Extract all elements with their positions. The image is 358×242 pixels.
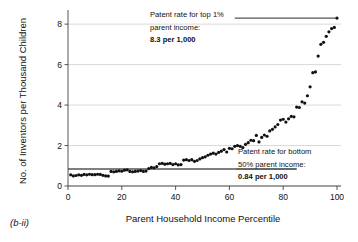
scatter-point [161,162,164,165]
scatter-point [134,170,137,173]
scatter-point [265,135,268,138]
scatter-point [290,115,293,118]
annotation-bottom-line1: Patent rate for bottom [238,146,311,159]
scatter-point [271,128,274,131]
scatter-point [252,139,255,142]
annotation-top-line1: Patent rate for top 1% [150,9,224,22]
scatter-point [247,141,250,144]
scatter-point [80,174,83,177]
scatter-point [309,85,312,88]
scatter-point [279,118,282,121]
y-tick-label-0: 0 [57,181,62,191]
scatter-point [182,159,185,162]
scatter-point [214,152,217,155]
scatter-point [139,169,142,172]
y-tick-label-2: 2 [57,141,62,151]
scatter-point [249,139,252,142]
scatter-point [204,155,207,158]
y-tick-label-4: 4 [57,100,62,110]
scatter-point [274,125,277,128]
scatter-point [144,169,147,172]
figure-panel-b-ii: 02468020406080100 No. of Inventors per T… [0,0,358,242]
x-tick-label-100: 100 [330,192,344,202]
scatter-point [107,174,110,177]
scatter-point [155,165,158,168]
scatter-point [233,145,236,148]
scatter-point [158,162,161,165]
scatter-point [257,140,260,143]
scatter-point [166,162,169,165]
scatter-point [333,26,336,29]
scatter-point [190,158,193,161]
scatter-point [99,173,102,176]
scatter-point [109,170,112,173]
scatter-point [306,94,309,97]
x-tick-label-80: 80 [278,192,288,202]
x-axis-title-label: Parent Household Income Percentile [126,213,281,224]
scatter-point [88,173,91,176]
panel-label-text: (b-ii) [10,217,29,228]
x-tick-label-60: 60 [225,192,235,202]
scatter-point [327,30,330,33]
y-axis-title: No. of Inventors per Thousand Children [12,1,30,201]
panel-label: (b-ii) [10,212,29,230]
x-axis-title: Parent Household Income Percentile [68,208,338,226]
scatter-point [128,170,131,173]
annotation-bottom-value: 0.84 per 1,000 [238,171,311,184]
scatter-point [126,168,129,171]
scatter-point [325,35,328,38]
scatter-point [177,163,180,166]
scatter-point [101,174,104,177]
y-axis-title-label: No. of Inventors per Thousand Children [17,18,28,184]
y-tick-label-8: 8 [57,19,62,29]
scatter-point [317,55,320,58]
scatter-point [335,16,338,19]
scatter-point [185,158,188,161]
scatter-point [93,173,96,176]
scatter-point [303,101,306,104]
scatter-point [123,169,126,172]
scatter-point [260,136,263,139]
scatter-point [136,169,139,172]
scatter-point [295,105,298,108]
x-tick-label-40: 40 [171,192,181,202]
scatter-point [209,152,212,155]
scatter-point [196,159,199,162]
scatter-point [225,150,228,153]
scatter-point [292,115,295,118]
scatter-point [228,147,231,150]
scatter-point [298,106,301,109]
scatter-point [85,173,88,176]
x-tick-label-20: 20 [117,192,127,202]
scatter-point [322,41,325,44]
scatter-point [74,174,77,177]
scatter-point [282,118,285,121]
annotation-top-1-percent: Patent rate for top 1% parent income: 8.… [150,9,224,47]
annotation-bottom-50-percent: Patent rate for bottom 50% parent income… [238,146,311,184]
scatter-point [193,160,196,163]
scatter-point [220,150,223,153]
scatter-point [131,170,134,173]
scatter-point [187,159,190,162]
annotation-top-value: 8.3 per 1,000 [150,34,224,47]
scatter-point [212,152,215,155]
annotation-top-line2: parent income: [150,22,224,35]
scatter-point [179,163,182,166]
x-tick-label-0: 0 [66,192,71,202]
scatter-point [150,166,153,169]
scatter-point [201,156,204,159]
scatter-point [255,134,258,137]
y-tick-label-6: 6 [57,60,62,70]
scatter-point [72,174,75,177]
scatter-point [287,117,290,120]
scatter-point [115,170,118,173]
scatter-point [314,70,317,73]
scatter-point [171,163,174,166]
scatter-point [230,147,233,150]
scatter-point [268,129,271,132]
scatter-point [311,71,314,74]
scatter-point [276,123,279,126]
scatter-point [118,169,121,172]
scatter-point [284,120,287,123]
scatter-point [142,170,145,173]
